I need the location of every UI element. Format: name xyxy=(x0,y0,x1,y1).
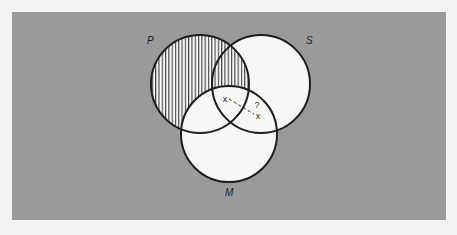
venn-diagram-figure: P S M x x ? xyxy=(0,0,457,235)
x-mark-1: x xyxy=(223,94,228,104)
label-p: P xyxy=(147,35,154,46)
venn-diagram: P S M x x ? xyxy=(0,0,457,235)
question-mark: ? xyxy=(254,100,259,110)
label-s: S xyxy=(306,35,313,46)
x-mark-2: x xyxy=(256,111,261,121)
label-m: M xyxy=(225,187,234,198)
